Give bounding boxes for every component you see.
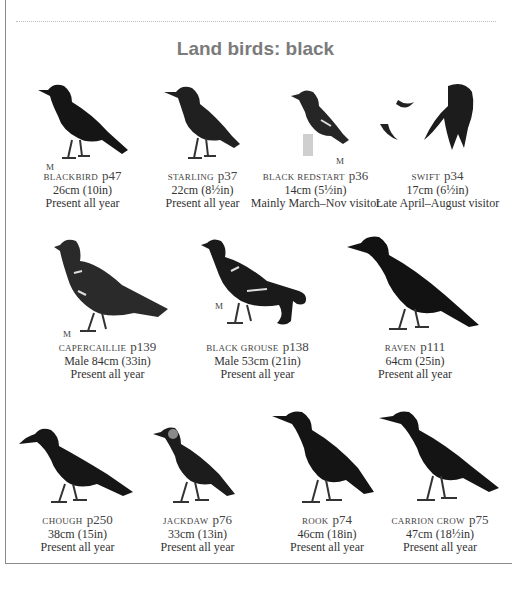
- bird-name: Blackbird: [43, 172, 98, 182]
- bird-card-chough: Chough p250 38cm (15in) Present all year: [15, 420, 140, 554]
- bird-page-ref: p76: [212, 512, 232, 527]
- bird-page-ref: p74: [333, 512, 353, 527]
- black-redstart-illustration-icon: [261, 78, 371, 166]
- bird-card-black-grouse: M Black grouse p138 Male 53cm (21in) Pre…: [195, 233, 320, 381]
- bird-status: Present all year: [370, 541, 510, 554]
- bird-status: Present all year: [20, 197, 145, 210]
- male-marker: M: [336, 156, 344, 166]
- bird-status: Present all year: [345, 368, 485, 381]
- bird-page-ref: p34: [444, 168, 464, 183]
- bird-name: Capercaillie: [59, 343, 127, 353]
- male-marker: M: [46, 162, 54, 172]
- bird-name: Jackdaw: [163, 516, 208, 526]
- bird-status: Present all year: [195, 368, 320, 381]
- bird-card-jackdaw: Jackdaw p76 33cm (13in) Present all year: [135, 420, 260, 554]
- bird-status: Present all year: [140, 197, 265, 210]
- bird-status: Present all year: [135, 541, 260, 554]
- bird-card-swift: Swift p34 17cm (6½in) Late April–August …: [365, 78, 510, 210]
- bird-name: Carrion crow: [392, 516, 465, 526]
- bird-card-blackbird: M Blackbird p47 26cm (10in) Present all …: [20, 78, 145, 210]
- bird-page-ref: p138: [283, 339, 309, 354]
- chough-illustration-icon: [15, 420, 140, 510]
- bird-status: Late April–August visitor: [365, 197, 510, 210]
- bird-name: Starling: [168, 172, 214, 182]
- bird-card-carrion-crow: Carrion crow p75 47cm (18½in) Present al…: [370, 408, 510, 554]
- bird-name: Swift: [412, 172, 441, 182]
- bird-card-capercaillie: M Capercaillie p139 Male 84cm (33in) Pre…: [35, 233, 180, 381]
- bird-status: Present all year: [35, 368, 180, 381]
- bird-card-raven: Raven p111 64cm (25in) Present all year: [345, 233, 485, 381]
- top-dotted-rule: [16, 21, 496, 22]
- bird-status: Present all year: [15, 541, 140, 554]
- jackdaw-illustration-icon: [135, 420, 260, 510]
- bird-name: Chough: [42, 516, 82, 526]
- bird-name: Raven: [385, 343, 416, 353]
- bird-page-ref: p250: [87, 512, 113, 527]
- raven-illustration-icon: [345, 233, 485, 337]
- bird-page-ref: p139: [130, 339, 156, 354]
- capercaillie-illustration-icon: [38, 233, 178, 337]
- starling-illustration-icon: [148, 78, 258, 166]
- bird-name: Black redstart: [263, 172, 345, 182]
- bird-card-black-redstart: M Black redstart p36 14cm (5½in) Mainly …: [248, 78, 383, 210]
- bird-page-ref: p47: [102, 168, 122, 183]
- bird-page-ref: p75: [469, 512, 489, 527]
- male-marker: M: [63, 329, 71, 339]
- bird-card-starling: Starling p37 22cm (8½in) Present all yea…: [140, 78, 265, 210]
- bird-name: Black grouse: [206, 343, 278, 353]
- bird-name: Rook: [302, 516, 329, 526]
- blackbird-illustration-icon: [28, 78, 138, 166]
- bird-page-ref: p111: [420, 339, 445, 354]
- bird-status: Mainly March–Nov visitor: [248, 197, 383, 210]
- male-marker: M: [215, 301, 223, 311]
- swift-illustration-icon: [368, 78, 508, 166]
- carrion-crow-illustration-icon: [375, 408, 505, 510]
- bird-page-ref: p37: [218, 168, 238, 183]
- black-grouse-illustration-icon: [195, 233, 320, 337]
- page-title: Land birds: black: [0, 38, 511, 60]
